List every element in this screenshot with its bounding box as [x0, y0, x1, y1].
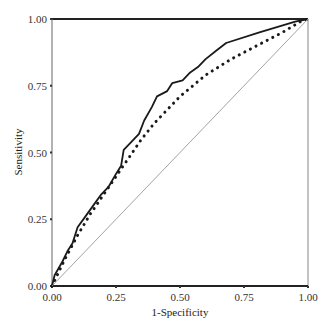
x-tick-label: 0.50: [170, 291, 190, 303]
series-layer: [52, 19, 308, 286]
reference-diagonal-line: [52, 19, 308, 286]
x-axis-title: 1-Specificity: [152, 306, 209, 318]
roc-chart: 0.000.250.500.751.00 0.000.250.500.751.0…: [0, 0, 328, 331]
x-tick-label: 0.75: [234, 291, 254, 303]
x-tick-label: 1.00: [298, 291, 318, 303]
x-tick-label: 0.00: [42, 291, 62, 303]
y-tick-label: 0.75: [28, 80, 48, 92]
y-axis-title: Sensitivity: [12, 128, 24, 176]
y-tick-label: 0.25: [28, 213, 48, 225]
x-tick-label: 0.25: [106, 291, 126, 303]
x-axis-ticks: 0.000.250.500.751.00: [42, 286, 318, 303]
y-tick-label: 0.50: [28, 147, 48, 159]
y-tick-label: 1.00: [28, 13, 48, 25]
y-axis-ticks: 0.000.250.500.751.00: [28, 13, 52, 292]
